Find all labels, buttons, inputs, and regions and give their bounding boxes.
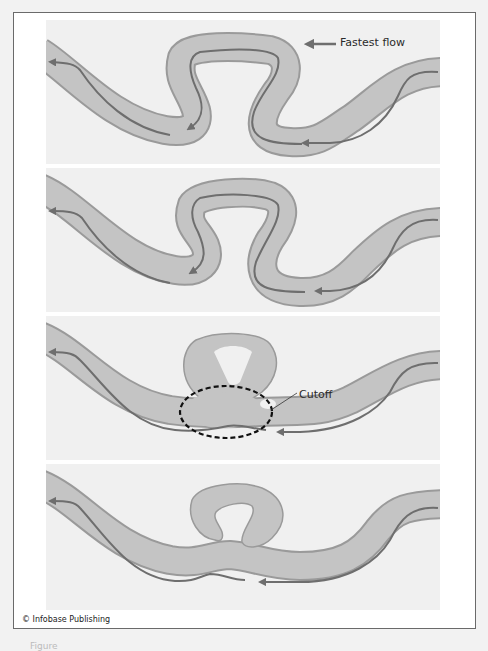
- stage-1-river: [40, 47, 445, 144]
- figure-caption: Figure: [30, 641, 57, 651]
- stage-3-river: [40, 334, 445, 432]
- copyright-notice: © Infobase Publishing: [22, 615, 110, 624]
- legend-label: Fastest flow: [340, 36, 405, 49]
- stage-2-river: [40, 188, 445, 292]
- cutoff-label: Cutoff: [299, 388, 332, 401]
- oxbow-lake: [191, 484, 283, 547]
- stage-4-river: [40, 484, 445, 582]
